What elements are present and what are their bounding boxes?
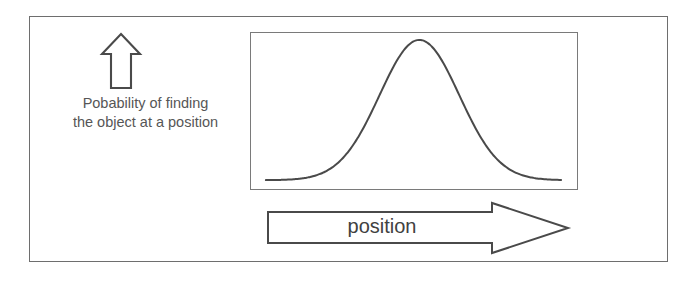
probability-plot-panel (250, 32, 578, 190)
probability-position-figure: Pobability of finding the object at a po… (0, 0, 698, 281)
x-axis-arrow: position (264, 199, 572, 257)
gaussian-curve (251, 33, 577, 189)
x-axis-label: position (268, 212, 496, 240)
y-axis-caption-line-2: the object at a position (33, 113, 258, 132)
gaussian-curve-path (266, 40, 561, 180)
y-axis-caption-line-1: Pobability of finding (33, 94, 258, 113)
up-arrow-icon (99, 31, 143, 91)
y-axis-caption: Pobability of finding the object at a po… (33, 94, 258, 132)
y-axis-legend: Pobability of finding the object at a po… (33, 28, 258, 148)
